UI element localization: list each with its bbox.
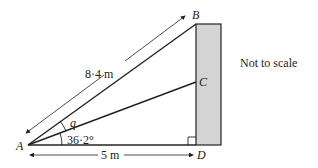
point-label-C: C bbox=[199, 75, 208, 89]
line-AC bbox=[28, 82, 196, 145]
hypotenuse-label: 8·4 m bbox=[85, 67, 114, 81]
point-label-A: A bbox=[15, 139, 24, 153]
point-label-D: D bbox=[196, 148, 206, 162]
angle-known-label: 36·2° bbox=[67, 133, 94, 147]
line-AB bbox=[28, 24, 196, 145]
point-label-B: B bbox=[192, 8, 200, 22]
dim-arrow-84-lower bbox=[26, 75, 104, 133]
angle-arc-q bbox=[60, 121, 66, 131]
angle-unknown-label: q bbox=[70, 116, 76, 130]
base-label: 5 m bbox=[101, 148, 120, 162]
trig-diagram: A B C D 8·4 m 5 m 36·2° q Not to scale bbox=[0, 0, 318, 168]
not-to-scale-note: Not to scale bbox=[240, 56, 297, 70]
right-angle-mark bbox=[188, 137, 196, 145]
angle-arc-36 bbox=[60, 133, 62, 145]
